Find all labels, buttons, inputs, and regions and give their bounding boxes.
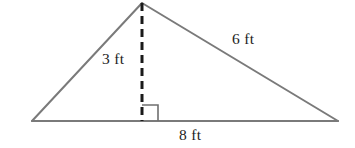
triangle-svg [0,0,355,148]
label-height-3ft: 3 ft [102,51,124,67]
geometry-figure: 3 ft 6 ft 8 ft [0,0,355,148]
label-right-side-6ft: 6 ft [232,31,254,47]
label-base-8ft: 8 ft [179,127,201,143]
triangle-right-side [142,3,338,121]
right-angle-icon [142,105,158,121]
triangle-left-side [32,3,142,121]
